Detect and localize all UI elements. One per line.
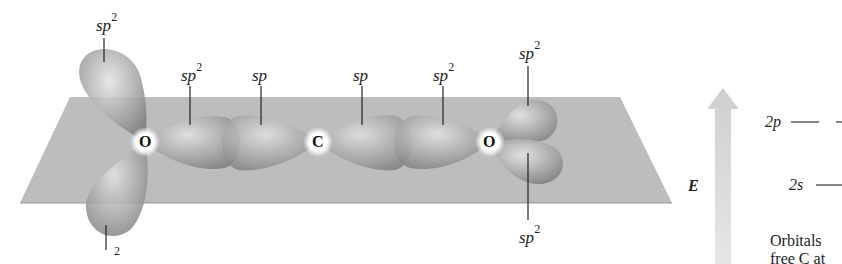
orbital-illustration (0, 0, 842, 264)
energy-arrow (707, 88, 739, 264)
caption-line-2: free C at (770, 251, 825, 264)
orbital-label: sp (252, 67, 267, 84)
orbital-label: sp (353, 67, 368, 84)
atom-carbon: C (312, 134, 324, 150)
energy-axis-label: E (688, 178, 699, 194)
orbital-label: sp2 (519, 42, 540, 62)
orbital-label: sp2 (96, 14, 117, 34)
orbital-label: sp2 (181, 64, 202, 84)
atom-oxygen-left: O (139, 134, 151, 150)
orbital-label: sp2 (519, 226, 540, 246)
level-label-2s: 2s (789, 177, 803, 193)
atom-oxygen-right: O (483, 134, 495, 150)
level-label-2p: 2p (765, 114, 781, 130)
orbital-label-cropped: 2 (114, 248, 120, 264)
co2-orbital-diagram: O C O sp2 sp2 sp sp sp2 sp2 sp2 2 E 2p 2… (0, 0, 842, 264)
caption-line-1: Orbitals (770, 233, 822, 249)
orbital-label: sp2 (433, 64, 454, 84)
